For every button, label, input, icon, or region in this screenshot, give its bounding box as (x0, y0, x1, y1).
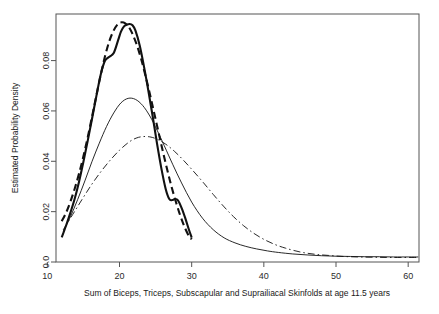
x-tick-label: 30 (187, 271, 197, 281)
x-tick-label: 40 (259, 271, 269, 281)
density-plot-figure: 102030405060 0.00.020.040.060.08 Sum of … (0, 0, 439, 314)
x-axis-title: Sum of Biceps, Triceps, Subscapular and … (84, 288, 390, 298)
figure-background (0, 0, 439, 314)
x-tick-label: 50 (331, 271, 341, 281)
y-tick-label: 0.04 (41, 153, 51, 171)
y-tick-label: 0.08 (41, 52, 51, 70)
y-axis-title: Estimated Probability Density (10, 82, 20, 193)
x-tick-label: 60 (403, 271, 413, 281)
y-tick-label: 0.02 (41, 203, 51, 221)
x-tick-label: 10 (42, 271, 52, 281)
y-tick-label: 0.06 (41, 102, 51, 120)
chart-canvas: 102030405060 0.00.020.040.060.08 Sum of … (0, 0, 439, 314)
y-tick-label: 0.0 (41, 256, 51, 269)
x-tick-label: 20 (114, 271, 124, 281)
